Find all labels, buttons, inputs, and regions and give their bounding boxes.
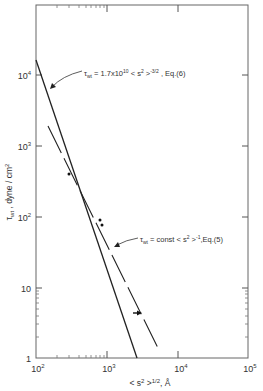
plot-frame <box>36 5 248 358</box>
x-tick-10e2: 102 <box>31 363 45 374</box>
eq6-label: τwt = 1.7x1010 < s2 >-3/2 , Eq.(6) <box>84 68 186 79</box>
eq6-solid-line <box>36 60 137 358</box>
arrow-data-point <box>133 311 142 316</box>
eq5-arrowhead-icon <box>114 242 120 247</box>
y-tick-1: 1 <box>26 354 31 364</box>
y-tick-10: 10 <box>21 284 31 294</box>
data-point <box>99 219 102 222</box>
x-major-ticks <box>107 5 178 358</box>
y-tick-labels: 1 10 102 103 104 <box>18 70 32 364</box>
eq5-label: τwt = const < s2 >-1,Eq.(5) <box>140 234 223 245</box>
x-tick-10e5: 105 <box>243 363 257 374</box>
x-tick-10e3: 103 <box>102 363 116 374</box>
data-point <box>68 173 71 176</box>
x-minor-ticks <box>57 5 104 358</box>
y-axis-label: τwt , dyne / cm2 <box>4 163 15 220</box>
x-tick-labels: 102 103 104 105 <box>31 363 257 374</box>
eq5-leader-line <box>117 238 138 245</box>
x-tick-10e4: 104 <box>174 363 188 374</box>
y-tick-10e3: 103 <box>18 141 32 152</box>
data-points <box>68 173 104 227</box>
log-log-chart: 1 10 102 103 104 102 103 104 105 < s2 >1… <box>0 0 263 391</box>
y-major-ticks <box>36 75 248 288</box>
data-point <box>101 224 104 227</box>
y-tick-10e4: 104 <box>18 70 32 81</box>
eq6-leader-line <box>52 71 82 87</box>
y-minor-ticks <box>36 291 248 337</box>
y-tick-10e2: 102 <box>18 212 32 223</box>
x-axis-label: < s2 >1/2, Å <box>130 378 171 388</box>
